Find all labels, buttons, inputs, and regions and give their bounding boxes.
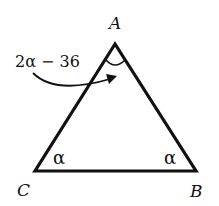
pointer-arrow — [33, 73, 110, 86]
angle-c-label: α — [53, 147, 65, 168]
vertex-label-c: C — [17, 180, 30, 200]
angle-b-label: α — [164, 147, 176, 168]
triangle-diagram: A C B 2α − 36 α α — [0, 0, 219, 206]
vertex-label-b: B — [189, 181, 203, 201]
angle-a-expression: 2α − 36 — [15, 52, 80, 71]
vertex-label-a: A — [107, 13, 121, 33]
angle-arc-a — [106, 60, 125, 65]
arrowhead-icon — [106, 74, 117, 84]
